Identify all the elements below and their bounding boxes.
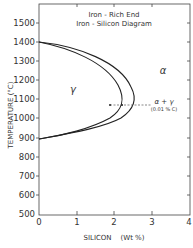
x-axis-ticks (77, 211, 152, 215)
tie-point-inner (109, 104, 111, 106)
y-tick-1000: 1000 (13, 113, 35, 123)
y-tick-900: 900 (19, 133, 35, 143)
x-tick-3: 3 (149, 217, 154, 227)
tie-point-outer (121, 104, 123, 106)
y-tick-600: 600 (19, 190, 35, 200)
gamma-region-label: γ (70, 84, 77, 95)
x-tick-1: 1 (74, 217, 79, 227)
chart-title: Iron - Rich End (88, 11, 139, 19)
alpha-region-label: α (160, 65, 167, 76)
top-ticks (77, 4, 152, 7)
y-tick-1300: 1300 (13, 56, 35, 66)
y-tick-500: 500 (19, 209, 35, 219)
y-axis-label: TEMPERATURE (°C) (7, 81, 15, 149)
y-tick-1100: 1100 (13, 94, 35, 104)
y-tick-700: 700 (19, 171, 35, 181)
x-tick-2: 2 (111, 217, 116, 227)
y-tick-1500: 1500 (13, 18, 35, 28)
x-tick-4: 4 (186, 217, 191, 227)
y-tick-1400: 1400 (13, 37, 35, 47)
y-axis-ticks (36, 23, 39, 195)
y-tick-labels: 1500 1400 1300 1200 1100 1000 900 800 70… (13, 18, 35, 219)
x-tick-0: 0 (36, 217, 41, 227)
chart-subtitle: Iron - Silicon Diagram (76, 20, 152, 28)
x-tick-labels: 0 1 2 3 4 (36, 217, 191, 227)
alpha-gamma-label: α + γ (154, 98, 174, 106)
carbon-note-label: (0.01 % C) (151, 106, 178, 112)
gamma-loop-inner-curve (39, 42, 122, 139)
right-ticks (187, 23, 190, 195)
y-tick-1200: 1200 (13, 75, 35, 85)
x-axis-label: SILICON (Wt %) (83, 234, 144, 242)
iron-silicon-phase-diagram: 1500 1400 1300 1200 1100 1000 900 800 70… (0, 0, 193, 248)
y-tick-800: 800 (19, 152, 35, 162)
